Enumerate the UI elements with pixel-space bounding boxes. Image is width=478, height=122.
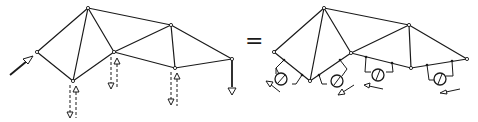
vertical-load-arrow bbox=[228, 59, 236, 95]
left-truss bbox=[10, 6, 236, 118]
diagram-canvas: = bbox=[0, 0, 478, 122]
node-f bbox=[173, 66, 176, 69]
applied-force-arrow bbox=[10, 56, 33, 75]
virtual-load-pair-f bbox=[168, 72, 180, 106]
virtual-load-pair-c bbox=[67, 85, 79, 118]
node-f-prime bbox=[409, 66, 412, 69]
equals-sign: = bbox=[245, 30, 263, 52]
node-b bbox=[86, 6, 89, 9]
node-a bbox=[35, 50, 38, 53]
node-b-prime bbox=[322, 6, 325, 9]
direction-arrow-4 bbox=[440, 89, 460, 94]
node-a-prime bbox=[272, 50, 275, 53]
node-g-prime bbox=[465, 57, 468, 60]
node-d bbox=[112, 50, 115, 53]
node-g bbox=[230, 57, 233, 60]
node-c-prime bbox=[308, 79, 311, 82]
truss-diagram bbox=[0, 0, 478, 122]
node-e bbox=[169, 23, 172, 26]
node-d-prime bbox=[349, 51, 352, 54]
direction-arrow-3 bbox=[364, 83, 383, 89]
virtual-load-pair-d bbox=[108, 57, 120, 89]
right-truss bbox=[266, 6, 469, 95]
node-e-prime bbox=[407, 23, 410, 26]
node-c bbox=[71, 79, 74, 82]
